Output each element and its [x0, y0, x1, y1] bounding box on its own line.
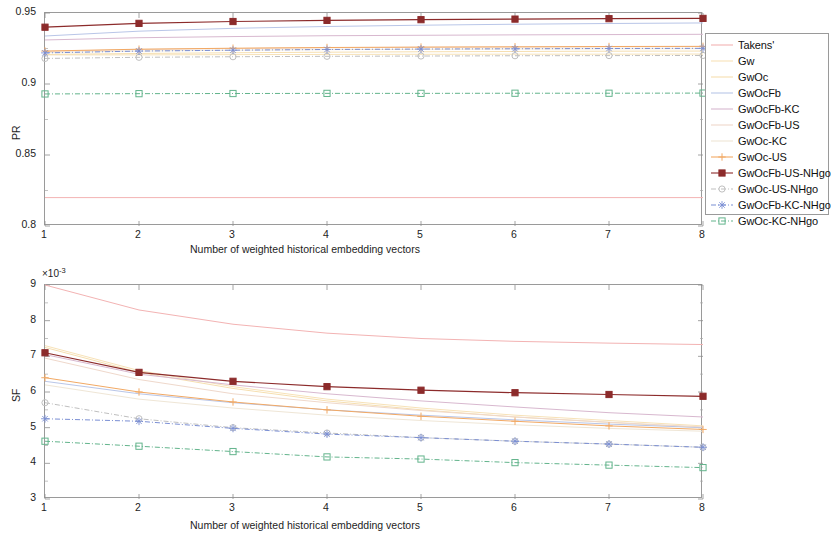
legend-item-label: GwOc-KC: [738, 134, 787, 148]
y-tick-label: 9: [0, 277, 36, 289]
pr-plot-area: [44, 12, 702, 225]
y-tick-label: 5: [0, 420, 36, 432]
series-marker-GwOcFb-KC-NHgo: [135, 47, 143, 55]
series-marker-GwOcFb-US-NHgo: [230, 378, 236, 384]
y-tick-label: 4: [0, 455, 36, 467]
legend-swatch-icon: [709, 214, 735, 228]
legend-item-GwOc-KC[interactable]: GwOc-KC: [706, 133, 828, 149]
series-marker-GwOcFb-US-NHgo: [42, 350, 48, 356]
sf-y-axis-label: SF: [10, 389, 22, 402]
legend-item-GwOc-US[interactable]: GwOc-US: [706, 149, 828, 165]
legend-item-label: GwOc-US-NHgo: [738, 182, 818, 196]
legend-item-Gw[interactable]: Gw: [706, 53, 828, 69]
y-tick-label: 8: [0, 313, 36, 325]
x-tick-label: 2: [128, 501, 148, 513]
y-tick-label: 3: [0, 491, 36, 503]
series-marker-GwOcFb-US-NHgo: [230, 18, 236, 24]
sf-series-canvas: [45, 285, 703, 499]
x-tick-label: 2: [128, 228, 148, 240]
series-line-Gw: [45, 346, 703, 426]
series-marker-GwOcFb-US-NHgo: [136, 369, 142, 375]
x-tick-label: 8: [692, 501, 712, 513]
x-tick-label: 3: [222, 501, 242, 513]
series-marker-GwOc-US: [417, 413, 424, 420]
series-marker-GwOc-US: [229, 398, 236, 405]
series-marker-GwOcFb-US-NHgo: [606, 391, 612, 397]
series-marker-GwOcFb-US-NHgo: [324, 17, 330, 23]
series-line-GwOc-US-NHgo: [45, 403, 703, 448]
legend-item-label: GwOc-US: [738, 150, 787, 164]
series-marker-GwOcFb-KC-NHgo: [417, 434, 425, 442]
y-tick-label: 0.95: [0, 5, 36, 17]
legend-item-GwOcFb-KC-NHgo[interactable]: GwOcFb-KC-NHgo: [706, 197, 828, 213]
legend-swatch-icon: [709, 70, 735, 84]
legend-item-GwOc-US-NHgo[interactable]: GwOc-US-NHgo: [706, 181, 828, 197]
series-line-GwOc-US-NHgo: [45, 55, 703, 58]
x-tick-label: 4: [316, 228, 336, 240]
legend-item-label: Gw: [738, 54, 754, 68]
series-line-GwOcFb-KC: [45, 34, 703, 40]
series-marker-GwOcFb-KC-NHgo: [323, 46, 331, 54]
sf-y-exponent: ×10-3: [42, 266, 66, 279]
legend-swatch-icon: [709, 54, 735, 68]
y-tick-label: 7: [0, 348, 36, 360]
legend-item-label: GwOcFb-US-NHgo: [738, 166, 831, 180]
legend-item-GwOc[interactable]: GwOc: [706, 69, 828, 85]
legend-swatch-icon: [709, 38, 735, 52]
legend-swatch-icon: [709, 134, 735, 148]
pr-series-canvas: [45, 13, 703, 226]
legend-item-label: GwOc: [738, 70, 768, 84]
series-marker-GwOcFb-KC-NHgo: [41, 49, 49, 57]
x-tick-label: 1: [34, 501, 54, 513]
series-marker-GwOc-US: [135, 388, 142, 395]
series-line-GwOc: [45, 347, 703, 427]
sf-plot-area: [44, 284, 702, 498]
series-marker-GwOc-US: [41, 374, 48, 381]
pr-x-axis-label: Number of weighted historical embedding …: [190, 243, 420, 255]
series-marker-GwOcFb-US-NHgo: [418, 387, 424, 393]
x-tick-label: 6: [504, 501, 524, 513]
legend-box: Takens'GwGwOcGwOcFbGwOcFb-KCGwOcFb-USGwO…: [705, 33, 829, 215]
sf-y-exponent-base: ×10: [42, 268, 59, 279]
legend-item-GwOcFb-KC[interactable]: GwOcFb-KC: [706, 101, 828, 117]
chart-panel-sf: 3456789 12345678 ×10-3 SF Number of weig…: [0, 262, 830, 538]
series-marker-GwOcFb-US-NHgo: [42, 24, 48, 30]
legend-swatch-icon: [709, 198, 735, 212]
series-marker-GwOcFb-US-NHgo: [324, 384, 330, 390]
legend-swatch-icon: [709, 102, 735, 116]
series-marker-GwOcFb-US-NHgo: [700, 393, 706, 399]
series-line-GwOc-KC-NHgo: [45, 441, 703, 467]
legend-item-GwOcFb-US[interactable]: GwOcFb-US: [706, 117, 828, 133]
series-marker-GwOcFb-US-NHgo: [606, 16, 612, 22]
series-marker-GwOcFb-KC-NHgo: [41, 415, 49, 423]
legend-swatch-icon: [709, 166, 735, 180]
y-tick-label: 0.85: [0, 147, 36, 159]
legend-item-label: Takens': [738, 38, 774, 52]
pr-y-axis-label: PR: [10, 125, 22, 140]
x-tick-label: 7: [598, 501, 618, 513]
legend-item-label: GwOcFb-KC-NHgo: [738, 198, 831, 212]
x-tick-label: 8: [692, 228, 712, 240]
series-marker-GwOcFb-KC-NHgo: [699, 443, 707, 451]
legend-item-label: GwOcFb-KC: [738, 102, 799, 116]
series-marker-GwOcFb-KC-NHgo: [417, 45, 425, 53]
x-tick-label: 3: [222, 228, 242, 240]
legend-item-GwOcFb-US-NHgo[interactable]: GwOcFb-US-NHgo: [706, 165, 828, 181]
series-marker-GwOcFb-US-NHgo: [136, 20, 142, 26]
series-marker-GwOcFb-KC-NHgo: [229, 424, 237, 432]
legend-swatch-icon: [709, 182, 735, 196]
legend-swatch-icon: [709, 118, 735, 132]
legend-swatch-icon: [709, 150, 735, 164]
series-marker-GwOcFb-KC-NHgo: [135, 417, 143, 425]
y-tick-label: 0.9: [0, 76, 36, 88]
series-line-Gw: [45, 54, 703, 55]
legend-item-GwOcFb[interactable]: GwOcFb: [706, 85, 828, 101]
legend-item-label: GwOcFb-US: [738, 118, 799, 132]
x-tick-label: 5: [410, 228, 430, 240]
legend-item-GwOc-KC-NHgo[interactable]: GwOc-KC-NHgo: [706, 213, 828, 229]
x-tick-label: 1: [34, 228, 54, 240]
series-marker-GwOc-US: [323, 406, 330, 413]
series-marker-GwOcFb-KC-NHgo: [511, 437, 519, 445]
legend-item-Takens'[interactable]: Takens': [706, 37, 828, 53]
